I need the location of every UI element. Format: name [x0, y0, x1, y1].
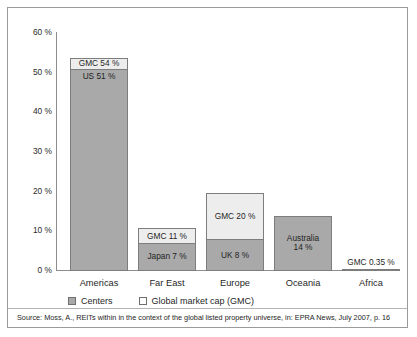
y-tick-label-20: 20 % [0, 186, 52, 196]
x-axis-label-oceania: Oceania [274, 278, 332, 288]
figure-frame: 60 % 50 % 40 % 30 % 20 % 10 % 0 % GMC 54… [7, 7, 408, 328]
legend-item-centers[interactable]: Centers [68, 296, 113, 306]
y-tick-label-10: 10 % [0, 225, 52, 235]
legend-item-global-market-cap[interactable]: Global market cap (GMC) [139, 296, 255, 306]
bar-segment-centers-americas[interactable]: US 51 % [70, 69, 128, 271]
bar-segment-gmc-africa[interactable] [342, 269, 400, 271]
plot-area: 60 % 50 % 40 % 30 % 20 % 10 % 0 % GMC 54… [56, 26, 396, 276]
bar-label-centers-far-east: Japan 7 % [147, 252, 186, 261]
bar-group-africa[interactable]: GMC 0.35 % [342, 269, 400, 270]
bar-label-centers-americas: US 51 % [83, 72, 116, 81]
bar-label-gmc-far-east: GMC 11 % [147, 232, 187, 241]
x-axis-label-europe: Europe [206, 278, 264, 288]
legend-swatch-gmc-icon [139, 297, 147, 305]
source-divider [8, 308, 407, 309]
legend-swatch-centers-icon [68, 297, 76, 305]
legend-label-centers: Centers [81, 296, 113, 306]
y-tick-label-0: 0 % [0, 265, 52, 275]
y-tick-label-60: 60 % [0, 27, 52, 37]
bar-segment-centers-oceania[interactable]: Australia 14 % [274, 216, 332, 272]
x-axis-label-africa: Africa [342, 278, 400, 288]
bar-group-oceania[interactable]: Australia 14 % [274, 216, 332, 271]
bar-label-centers-europe: UK 8 % [221, 251, 249, 260]
y-axis-line [56, 32, 57, 270]
bar-segment-centers-europe[interactable]: UK 8 % [206, 239, 264, 271]
bar-segment-gmc-europe[interactable]: GMC 20 % [206, 193, 264, 241]
bar-label-centers-oceania-line2: 14 % [294, 243, 313, 252]
bar-group-far-east[interactable]: GMC 11 % Japan 7 % [138, 228, 196, 270]
bar-label-gmc-americas: GMC 54 % [79, 59, 120, 68]
x-axis-label-americas: Americas [70, 278, 128, 288]
legend: Centers Global market cap (GMC) [68, 296, 254, 306]
y-tick-label-50: 50 % [0, 67, 52, 77]
bar-group-americas[interactable]: GMC 54 % US 51 % [70, 58, 128, 270]
source-note: Source: Moss, A., REITs within in the co… [17, 313, 401, 322]
legend-label-global-market-cap: Global market cap (GMC) [152, 296, 255, 306]
y-tick-label-30: 30 % [0, 146, 52, 156]
y-tick-label-40: 40 % [0, 106, 52, 116]
bar-group-europe[interactable]: GMC 20 % UK 8 % [206, 193, 264, 270]
x-axis-label-far-east: Far East [138, 278, 196, 288]
bar-label-gmc-africa: GMC 0.35 % [342, 257, 400, 267]
bar-segment-centers-far-east[interactable]: Japan 7 % [138, 243, 196, 271]
bar-segment-gmc-far-east[interactable]: GMC 11 % [138, 228, 196, 244]
bar-label-gmc-europe: GMC 20 % [215, 212, 256, 221]
